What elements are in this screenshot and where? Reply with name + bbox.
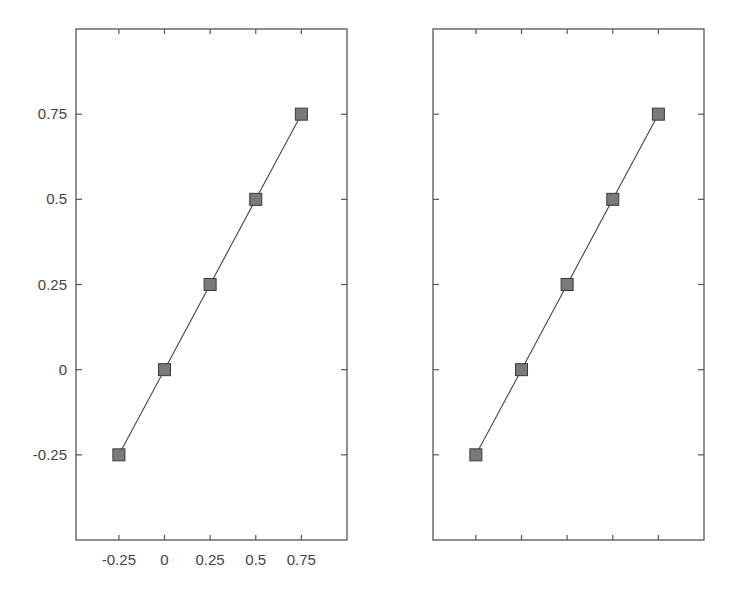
x-tick-label: 0.25 xyxy=(196,551,225,568)
y-tick-label: 0.75 xyxy=(38,105,67,122)
figure-canvas: -0.2500.250.50.75-0.2500.250.50.75 xyxy=(0,0,733,597)
left-plot-panel: -0.2500.250.50.75-0.2500.250.50.75 xyxy=(33,29,347,568)
square-marker-icon xyxy=(250,193,262,205)
square-marker-icon xyxy=(516,364,528,376)
square-marker-icon xyxy=(295,108,307,120)
y-tick-label: 0.5 xyxy=(46,190,67,207)
right-plot-panel xyxy=(433,29,704,540)
y-tick-label: 0.25 xyxy=(38,276,67,293)
y-tick-label: -0.25 xyxy=(33,446,67,463)
square-marker-icon xyxy=(159,364,171,376)
x-tick-label: 0.5 xyxy=(245,551,266,568)
x-tick-label: 0 xyxy=(160,551,168,568)
x-tick-label: 0.75 xyxy=(287,551,316,568)
square-marker-icon xyxy=(470,449,482,461)
square-marker-icon xyxy=(113,449,125,461)
square-marker-icon xyxy=(652,108,664,120)
square-marker-icon xyxy=(607,193,619,205)
x-tick-label: -0.25 xyxy=(102,551,136,568)
y-tick-label: 0 xyxy=(59,361,67,378)
square-marker-icon xyxy=(561,279,573,291)
square-marker-icon xyxy=(204,279,216,291)
